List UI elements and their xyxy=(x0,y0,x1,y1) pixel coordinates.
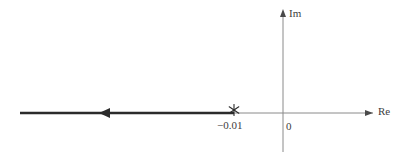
origin-tick-label: 0 xyxy=(286,121,292,132)
real-axis-label: Re xyxy=(378,106,390,117)
locus-direction-arrowhead xyxy=(99,108,110,118)
real-axis-arrowhead xyxy=(365,110,373,116)
complex-plane-plot xyxy=(0,0,404,160)
pole-value-label: −0.01 xyxy=(217,120,242,131)
root-locus-figure: Im Re 0 −0.01 xyxy=(0,0,404,160)
imaginary-axis-arrowhead xyxy=(280,9,286,17)
imaginary-axis-label: Im xyxy=(289,8,301,19)
